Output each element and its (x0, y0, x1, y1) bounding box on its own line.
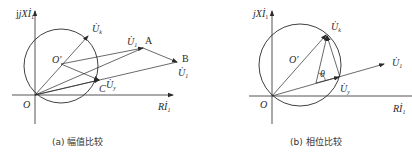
diagram-a-u1-a-label: U̇1 (127, 36, 137, 48)
diagram-a-point-a: A (145, 35, 153, 46)
diagram-a-caption: (a) 幅值比较 (52, 136, 103, 147)
diagram-b-theta-label: θ (320, 68, 325, 79)
diagram-a-point-b: B (182, 53, 189, 64)
diagram-b-y-axis-label: jXİ1 (251, 8, 268, 20)
diagram-a-y-axis-label: jjXİ1 (15, 8, 34, 20)
diagram-a-uy-label: U̇y (106, 79, 116, 91)
diagram-a-origin-label: O (23, 99, 30, 110)
diagram-a-vector-o-prime-c (61, 64, 99, 80)
diagram-b-origin-label: O (260, 99, 267, 110)
diagram-b-x-axis-label: Rİ1 (392, 103, 405, 115)
diagram-a-vector-ab (143, 48, 177, 62)
diagram-a-point-c: C (99, 83, 106, 94)
diagram-b-caption: (b) 相位比较 (290, 136, 342, 147)
diagram-a-center-label: O' (52, 54, 62, 65)
diagram-a-amplitude-comparison: jjXİ1 O O' Rİ1 U̇k U̇1 A B U̇1 C U̇y (a)… (12, 8, 189, 147)
impedance-relay-comparison-figure: jjXİ1 O O' Rİ1 U̇k U̇1 A B U̇1 C U̇y (a)… (0, 0, 412, 157)
diagram-a-vector-u1-a (61, 48, 143, 64)
diagram-a-u1-b-label: U̇1 (178, 67, 188, 79)
diagram-a-vector-oc (35, 80, 99, 95)
diagram-a-x-axis-label: Rİ1 (157, 101, 170, 113)
diagram-a-uk-label: U̇k (92, 23, 102, 35)
diagram-a-vector-uk (35, 36, 88, 95)
diagram-b-uy-label: U̇y (340, 83, 350, 95)
diagram-a-vector-u1-b (61, 61, 175, 64)
diagram-b-uk-label: U̇k (331, 21, 341, 33)
diagram-b-vector-uk (272, 35, 326, 96)
diagram-b-phase-comparison: jXİ1 O O' Rİ1 θ U̇k U̇1 U̇y (b) 相位比较 (249, 8, 412, 147)
diagram-b-circle (259, 24, 341, 106)
diagram-b-center-label: O' (289, 54, 299, 65)
diagram-b-u1-label: U̇1 (392, 57, 402, 69)
